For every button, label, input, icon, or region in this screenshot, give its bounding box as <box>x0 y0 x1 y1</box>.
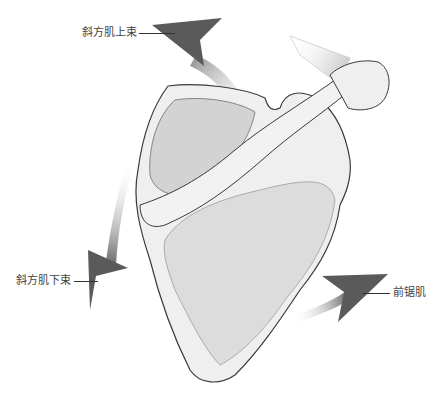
upper-trapezius-label: 斜方肌上束 <box>82 27 137 39</box>
upper-trapezius-leader <box>139 33 175 34</box>
lower-trapezius-label: 斜方肌下束 <box>16 275 71 287</box>
scapula-illustration <box>0 0 441 395</box>
clavicle <box>330 61 389 110</box>
lower-trapezius-leader <box>74 281 98 282</box>
lower-trapezius-arrow <box>88 160 134 310</box>
serratus-anterior-label: 前锯肌 <box>393 287 426 299</box>
serratus-anterior-leader <box>362 293 390 294</box>
scapula <box>136 80 350 382</box>
